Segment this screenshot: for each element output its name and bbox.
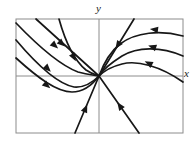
phase-portrait-canvas [0, 0, 194, 147]
y-axis-label: y [96, 3, 101, 14]
phase-portrait-figure: y x [0, 0, 194, 147]
x-axis-label: x [184, 68, 189, 79]
